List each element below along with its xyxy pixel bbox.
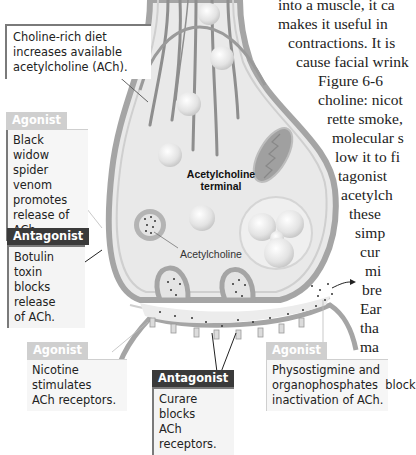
terminal-label-line2: terminal (186, 180, 256, 192)
callout-black-widow: Agonist Black widow spider venom promote… (6, 112, 88, 241)
pointer-botulin (85, 250, 102, 262)
body-line: choline: nicot (318, 90, 403, 109)
callout-choline-text: Choline-rich diet increases available ac… (13, 30, 128, 74)
callout-line: Black widow (13, 133, 83, 163)
agonist-tag: Agonist (6, 112, 67, 129)
callout-line: Botulin toxin (14, 250, 80, 280)
body-line: mi (365, 261, 381, 280)
body-line: Ear (360, 299, 382, 318)
terminal-label-line1: Acetylcholine (186, 168, 256, 180)
agonist-tag: Agonist (27, 342, 88, 359)
callout-line: ACh receptors. (159, 422, 229, 452)
callout-line: spider venom (13, 163, 83, 193)
callout-line: Physostigmine and (272, 363, 383, 378)
body-line: low it to fi (335, 147, 400, 166)
body-line: Figure 6-6 (318, 71, 383, 90)
callout-line: inactivation of ACh. (272, 393, 383, 408)
body-line: bre (362, 280, 382, 299)
vesicle-label: Acetylcholine (180, 248, 242, 260)
callout-line: Curare blocks (159, 392, 229, 422)
body-line: acetylch (341, 185, 393, 204)
callout-line: blocks release (14, 280, 80, 310)
callout-line: organophosphates block (272, 378, 383, 393)
callout-line: promotes (13, 193, 83, 208)
callout-physostigmine: Agonist Physostigmine and organophosphat… (266, 342, 388, 411)
callout-line: of ACh. (14, 310, 80, 325)
body-line: contractions. It is (288, 33, 395, 52)
callout-curare: Antagonist Curare blocks ACh receptors. (152, 370, 234, 455)
terminal-label: Acetylcholine terminal (186, 168, 256, 192)
callout-nicotine: Agonist Nicotine stimulates ACh receptor… (27, 342, 127, 411)
antagonist-tag: Antagonist (7, 228, 89, 245)
callout-line: ACh receptors. (32, 393, 122, 408)
callout-botulin: Antagonist Botulin toxin blocks release … (7, 228, 85, 328)
body-line: makes it useful in (278, 14, 388, 33)
body-line: these (349, 204, 381, 223)
callout-choline-diet: Choline-rich diet increases available ac… (5, 24, 151, 79)
body-line: into a muscle, it ca (278, 0, 395, 14)
body-line: cur (360, 242, 380, 261)
body-line: tagonist (338, 166, 387, 185)
body-line: tha (360, 318, 379, 337)
callout-line: Nicotine stimulates (32, 363, 122, 393)
body-line: rette smoke, (327, 109, 403, 128)
antagonist-tag: Antagonist (152, 370, 234, 387)
agonist-tag: Agonist (266, 342, 327, 359)
body-line: cause facial wrink (296, 52, 409, 71)
body-line: molecular s (332, 128, 404, 147)
body-line: simp (355, 223, 385, 242)
